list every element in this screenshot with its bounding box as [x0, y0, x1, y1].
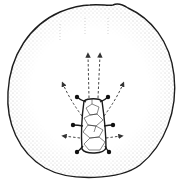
- knob-icon: [71, 123, 75, 127]
- diagram-canvas: [0, 0, 181, 187]
- central-cell-body: [82, 99, 106, 153]
- knob-icon: [107, 150, 111, 154]
- knob-icon: [106, 95, 110, 99]
- knob-icon: [111, 123, 115, 127]
- knob-icon: [75, 95, 79, 99]
- embryo-diagram: [0, 0, 181, 187]
- knob-icon: [75, 150, 79, 154]
